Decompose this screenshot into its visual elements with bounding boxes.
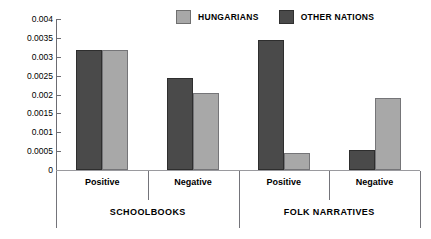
category-label-negative-schoolbooks: Negative [148,178,239,187]
category-group-label-folk-narratives: FOLK NARRATIVES [239,208,421,217]
bar-other-nations [349,150,375,170]
y-tick-label: 0.0015 [8,109,53,118]
y-tick-label: 0.003 [8,53,53,62]
bar-group-schoolbooks-positive [57,19,148,170]
y-tick-label: 0.004 [8,15,53,24]
bar-hungarians [193,93,219,170]
bar-other-nations [76,50,102,170]
bar-chart: HUNGARIANS OTHER NATIONS 0.004 0.0035 0.… [0,0,431,239]
category-label-positive-folk-narratives: Positive [239,178,330,187]
y-tick-label: 0.001 [8,128,53,137]
bar-pair [239,19,330,170]
y-tick-label: 0 [8,166,53,175]
bar-group-schoolbooks-negative [148,19,239,170]
bar-group-folk-narratives-positive [239,19,330,170]
bar-pair [329,19,420,170]
category-group-separator-right [420,171,421,228]
y-tick-label: 0.002 [8,90,53,99]
bar-pair [57,19,148,170]
bar-other-nations [258,40,284,170]
category-group-label-schoolbooks: SCHOOLBOOKS [57,208,239,217]
category-label-positive-schoolbooks: Positive [57,178,148,187]
y-tick-label: 0.0005 [8,147,53,156]
bar-pair [148,19,239,170]
bar-hungarians [375,98,401,171]
bar-other-nations [167,78,193,170]
bar-group-folk-narratives-negative [329,19,420,170]
plot-area [57,19,420,170]
bar-hungarians [284,153,310,170]
y-axis-tick-labels: 0.004 0.0035 0.003 0.0025 0.002 0.0015 0… [8,19,53,170]
y-tick-label: 0.0035 [8,34,53,43]
category-label-negative-folk-narratives: Negative [329,178,420,187]
bar-hungarians [102,50,128,170]
y-tick-label: 0.0025 [8,71,53,80]
